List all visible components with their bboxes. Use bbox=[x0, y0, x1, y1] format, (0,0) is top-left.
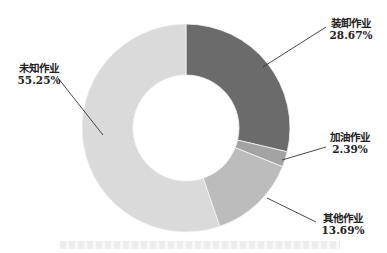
label-other: 其他作业 13.69% bbox=[312, 212, 374, 236]
slice-name: 其他作业 bbox=[312, 212, 374, 224]
slice-percent: 2.39% bbox=[322, 143, 378, 155]
leader-line-s2 bbox=[267, 198, 316, 222]
leader-line-s1 bbox=[282, 147, 326, 160]
donut-slices bbox=[82, 24, 290, 232]
donut-slice-0 bbox=[186, 24, 290, 152]
slice-name: 未知作业 bbox=[6, 62, 72, 74]
slice-percent: 55.25% bbox=[6, 74, 72, 86]
slice-percent: 28.67% bbox=[318, 29, 384, 41]
label-loading-unloading: 装卸作业 28.67% bbox=[318, 17, 384, 41]
figure-caption-faint bbox=[60, 241, 340, 249]
slice-percent: 13.69% bbox=[312, 224, 374, 236]
leader-line-s0 bbox=[263, 27, 326, 67]
slice-name: 加油作业 bbox=[322, 131, 378, 143]
label-refueling: 加油作业 2.39% bbox=[322, 131, 378, 155]
slice-name: 装卸作业 bbox=[318, 17, 384, 29]
label-unknown: 未知作业 55.25% bbox=[6, 62, 72, 86]
